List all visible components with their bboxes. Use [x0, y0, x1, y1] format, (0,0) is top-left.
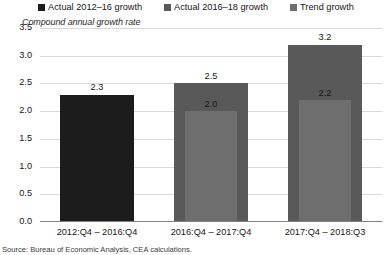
legend-item-label: Actual 2012–16 growth — [48, 3, 142, 12]
x-axis-category-label: 2012:Q4 – 2016:Q4 — [40, 227, 154, 239]
bar-value-label: 2.0 — [205, 100, 218, 109]
y-axis-tick-label: 1.5 — [19, 134, 32, 143]
y-axis-tick-label: 2.0 — [19, 107, 32, 116]
x-axis-category-labels: 2012:Q4 – 2016:Q42016:Q4 – 2017:Q42017:Q… — [40, 227, 382, 239]
legend-item[interactable]: Trend growth — [290, 3, 354, 12]
legend-item[interactable]: Actual 2012–16 growth — [38, 3, 142, 12]
square-marker-icon — [164, 4, 171, 11]
y-axis-tick-label: 0.0 — [19, 217, 32, 226]
bar[interactable]: 2.2 — [299, 100, 351, 222]
axis-baseline — [40, 221, 382, 222]
y-axis-tick-label: 3.0 — [19, 51, 32, 60]
plot-area: 2.32.52.03.22.2 — [40, 28, 382, 222]
y-axis-title: Compound annual growth rate — [22, 17, 140, 27]
bar-group: 2.52.0 — [154, 28, 268, 222]
y-axis-tick-label: 3.5 — [19, 23, 32, 32]
bar-value-label: 2.3 — [91, 83, 104, 92]
y-axis-tick-label: 2.5 — [19, 79, 32, 88]
square-marker-icon — [38, 4, 45, 11]
bar[interactable]: 2.0 — [185, 111, 237, 222]
chart-legend: Actual 2012–16 growthActual 2016–18 grow… — [0, 1, 392, 15]
legend-item-label: Actual 2016–18 growth — [174, 3, 268, 12]
bar-value-label: 2.5 — [205, 72, 218, 81]
bar-group: 2.3 — [40, 28, 154, 222]
legend-item-label: Trend growth — [300, 3, 354, 12]
y-axis-tick-labels: 3.53.02.52.01.51.00.50.0 — [0, 28, 38, 222]
bar-chart: Actual 2012–16 growthActual 2016–18 grow… — [0, 0, 392, 255]
legend-item[interactable]: Actual 2016–18 growth — [164, 3, 268, 12]
y-axis-tick-label: 0.5 — [19, 190, 32, 199]
x-axis-category-label: 2017:Q4 – 2018:Q3 — [268, 227, 382, 239]
bar-groups: 2.32.52.03.22.2 — [40, 28, 382, 222]
bar-value-label: 3.2 — [319, 33, 332, 42]
bar[interactable]: 2.3 — [60, 95, 134, 222]
bar-value-label: 2.2 — [319, 89, 332, 98]
y-axis-tick-label: 1.0 — [19, 162, 32, 171]
bar-group: 3.22.2 — [268, 28, 382, 222]
x-axis-category-label: 2016:Q4 – 2017:Q4 — [154, 227, 268, 239]
source-note: Source: Bureau of Economic Analysis, CEA… — [2, 246, 192, 254]
square-marker-icon — [290, 4, 297, 11]
